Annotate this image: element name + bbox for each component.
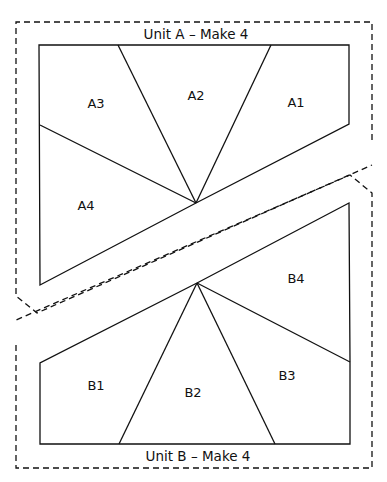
seam-b3-b4: [197, 283, 350, 362]
piece-label-a4: A4: [77, 198, 94, 213]
piece-label-b4: B4: [287, 271, 304, 286]
quilt-pattern-diagram: Unit A – Make 4 A1 A2 A3 A4 B1 B2 B3 B4 …: [0, 0, 387, 482]
piece-label-a3: A3: [87, 96, 104, 111]
unit-b-outline: [40, 203, 350, 444]
seam-a2-a3: [118, 45, 196, 203]
unit-a-outline: [39, 45, 349, 285]
piece-label-a1: A1: [287, 95, 304, 110]
piece-label-a2: A2: [187, 88, 204, 103]
unit-a-title: Unit A – Make 4: [141, 26, 252, 42]
pattern-drawing: [0, 0, 387, 482]
unit-b-title: Unit B – Make 4: [146, 448, 251, 464]
piece-label-b2: B2: [184, 385, 201, 400]
seam-b2-b3: [197, 283, 275, 444]
seam-a3-a4: [40, 125, 196, 203]
seam-b1-b2: [119, 283, 197, 444]
piece-label-b3: B3: [278, 368, 295, 383]
piece-label-b1: B1: [87, 378, 104, 393]
seam-a1-a2: [196, 45, 271, 203]
